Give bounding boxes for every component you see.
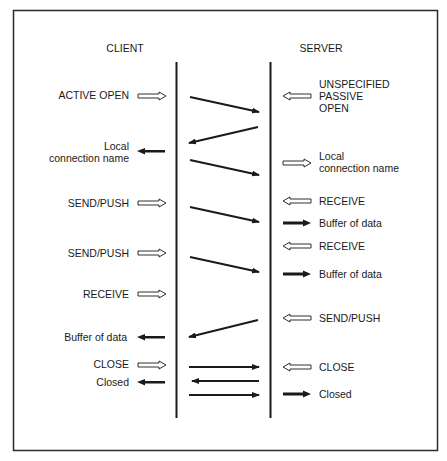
client-event-send-push-1: SEND/PUSH xyxy=(68,197,166,209)
message-arrow-data-1 xyxy=(190,207,259,222)
tcp-connection-sequence-diagram: CLIENT SERVER ACTIVE OPEN Local connecti… xyxy=(0,0,447,461)
hollow-arrow-left-icon xyxy=(283,197,311,205)
client-event-closed: Closed xyxy=(96,376,165,388)
filled-arrow-right-icon xyxy=(283,220,311,227)
client-event-close: CLOSE xyxy=(93,358,166,370)
svg-text:OPEN: OPEN xyxy=(319,102,349,114)
server-event-local-connection-name: Local connection name xyxy=(283,150,399,174)
server-event-buffer-of-data-1: Buffer of data xyxy=(283,217,382,229)
svg-text:CLOSE: CLOSE xyxy=(319,361,355,373)
server-event-receive-2: RECEIVE xyxy=(283,240,365,252)
server-event-receive-1: RECEIVE xyxy=(283,195,365,207)
hollow-arrow-left-icon xyxy=(283,363,311,371)
svg-text:PASSIVE: PASSIVE xyxy=(319,90,363,102)
svg-text:CLOSE: CLOSE xyxy=(93,358,129,370)
hollow-arrow-right-icon xyxy=(138,199,166,207)
svg-text:SEND/PUSH: SEND/PUSH xyxy=(68,197,129,209)
client-event-receive: RECEIVE xyxy=(83,288,166,300)
server-event-closed: Closed xyxy=(283,388,352,400)
svg-text:UNSPECIFIED: UNSPECIFIED xyxy=(319,78,390,90)
client-event-send-push-2: SEND/PUSH xyxy=(68,247,166,259)
svg-text:Buffer of data: Buffer of data xyxy=(319,268,382,280)
svg-text:Local: Local xyxy=(104,140,129,152)
svg-text:ACTIVE OPEN: ACTIVE OPEN xyxy=(58,89,129,101)
svg-text:SEND/PUSH: SEND/PUSH xyxy=(319,312,380,324)
message-arrow-data-2 xyxy=(190,257,259,272)
hollow-arrow-right-icon xyxy=(138,290,166,298)
filled-arrow-left-icon xyxy=(137,148,165,155)
filled-arrow-left-icon xyxy=(137,379,165,386)
client-event-buffer-of-data: Buffer of data xyxy=(64,331,165,343)
svg-text:connection name: connection name xyxy=(49,152,129,164)
client-event-active-open: ACTIVE OPEN xyxy=(58,89,166,101)
svg-text:Local: Local xyxy=(319,150,344,162)
client-header: CLIENT xyxy=(106,42,144,54)
filled-arrow-right-icon xyxy=(283,391,311,398)
server-event-send-push: SEND/PUSH xyxy=(283,312,380,324)
svg-text:Closed: Closed xyxy=(319,388,352,400)
server-event-buffer-of-data-2: Buffer of data xyxy=(283,268,382,280)
hollow-arrow-right-icon xyxy=(138,361,166,369)
hollow-arrow-right-icon xyxy=(138,92,166,100)
client-event-local-connection-name: Local connection name xyxy=(49,140,165,164)
svg-text:SEND/PUSH: SEND/PUSH xyxy=(68,247,129,259)
message-arrow-data-3 xyxy=(189,320,258,337)
message-arrows xyxy=(189,97,259,395)
hollow-arrow-left-icon xyxy=(283,92,311,100)
hollow-arrow-left-icon xyxy=(283,242,311,250)
svg-text:Buffer of data: Buffer of data xyxy=(319,217,382,229)
hollow-arrow-right-icon xyxy=(138,249,166,257)
svg-text:RECEIVE: RECEIVE xyxy=(319,195,365,207)
hollow-arrow-left-icon xyxy=(283,314,311,322)
message-arrow-syn xyxy=(190,97,259,112)
filled-arrow-right-icon xyxy=(283,271,311,278)
svg-text:Buffer of data: Buffer of data xyxy=(64,331,127,343)
figure-frame xyxy=(14,11,438,451)
hollow-arrow-right-icon xyxy=(283,159,311,167)
message-arrow-syn-ack xyxy=(189,127,258,143)
svg-text:connection name: connection name xyxy=(319,162,399,174)
server-header: SERVER xyxy=(300,42,343,54)
svg-text:Closed: Closed xyxy=(96,376,129,388)
svg-text:RECEIVE: RECEIVE xyxy=(83,288,129,300)
message-arrow-ack xyxy=(190,160,259,175)
server-event-unspecified-passive-open: UNSPECIFIED PASSIVE OPEN xyxy=(283,78,390,114)
filled-arrow-left-icon xyxy=(137,334,165,341)
server-event-close: CLOSE xyxy=(283,361,355,373)
svg-text:RECEIVE: RECEIVE xyxy=(319,240,365,252)
